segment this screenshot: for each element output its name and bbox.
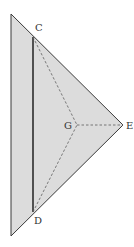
label-C: C	[35, 22, 43, 33]
geometry-diagram: C D G E	[0, 0, 134, 247]
label-D: D	[34, 215, 42, 226]
label-E: E	[126, 120, 133, 131]
label-G: G	[64, 120, 72, 131]
